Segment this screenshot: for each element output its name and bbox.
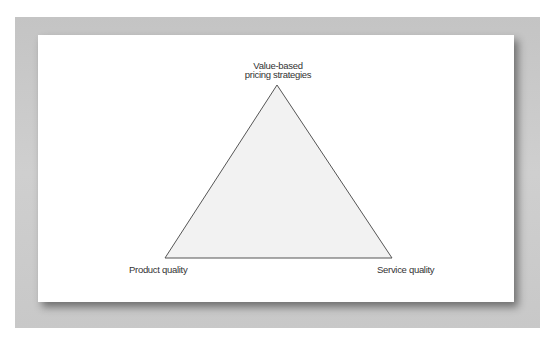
value-triangle [165,85,392,258]
vertex-label-top-line2: pricing strategies [228,70,328,79]
vertex-label-service-quality: Service quality [377,265,434,274]
vertex-label-value-based-pricing: Value-based pricing strategies [228,61,328,79]
vertex-label-product-quality: Product quality [129,265,187,274]
triangle-diagram [0,0,559,337]
